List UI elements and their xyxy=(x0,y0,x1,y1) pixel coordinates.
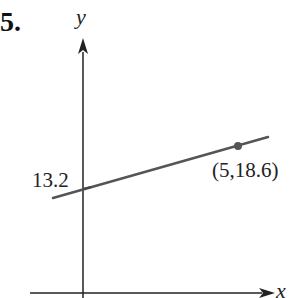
data-point-marker xyxy=(234,142,242,150)
x-axis xyxy=(30,288,275,298)
x-axis-label: x xyxy=(276,278,286,298)
y-axis-label: y xyxy=(76,4,86,30)
graph xyxy=(0,0,289,298)
point-label: (5,18.6) xyxy=(212,158,279,183)
y-axis xyxy=(78,38,88,298)
y-axis-arrow-icon xyxy=(78,38,88,54)
y-intercept-label: 13.2 xyxy=(32,168,69,193)
